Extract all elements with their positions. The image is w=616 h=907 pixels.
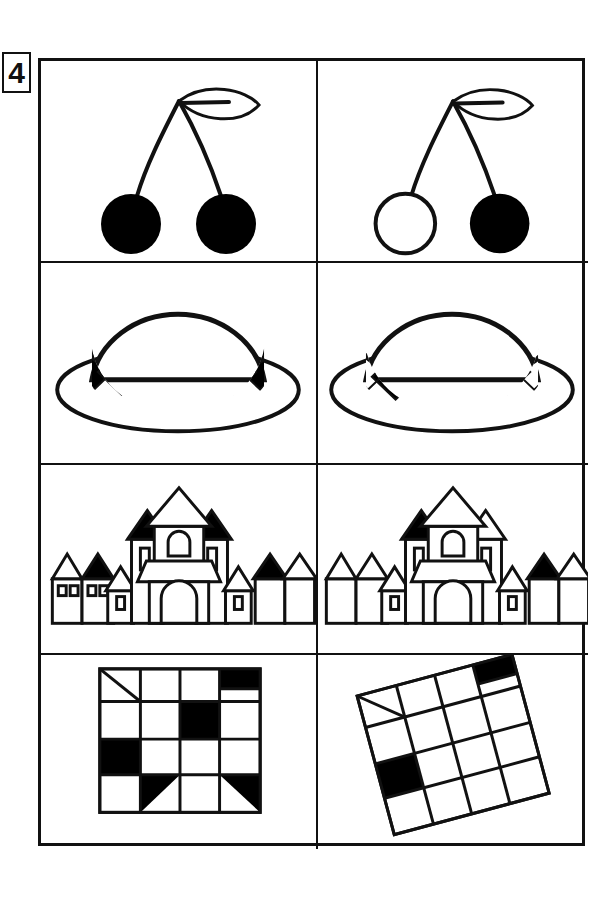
checkerboard-left-illustration	[41, 655, 316, 849]
hat-right-illustration	[318, 263, 588, 463]
castle-left-illustration	[41, 465, 316, 653]
checkerboard-right-illustration	[318, 655, 588, 849]
cell-castle-left	[41, 463, 316, 653]
castle-right-illustration	[318, 465, 588, 653]
cherry-right-berry	[470, 194, 530, 254]
cell-hat-right	[316, 261, 588, 463]
hat-crown	[366, 314, 538, 380]
worksheet-frame	[38, 58, 585, 846]
cell-cherries-right	[316, 61, 588, 261]
cell-castle-right	[316, 463, 588, 653]
cherry-right-berry	[196, 194, 256, 254]
cell-hat-left	[41, 261, 316, 463]
cherries-right-illustration	[318, 61, 588, 261]
cherry-left-berry	[376, 194, 436, 254]
exercise-number-label: 4	[8, 58, 25, 88]
cherries-left-illustration	[41, 61, 316, 261]
hat-left-illustration	[41, 263, 316, 463]
cell-cherries-left	[41, 61, 316, 261]
cell-checkerboard-right	[316, 653, 588, 849]
cherry-left-berry	[101, 194, 161, 254]
exercise-number-box: 4	[2, 52, 31, 93]
hat-crown	[92, 314, 264, 380]
cell-checkerboard-left	[41, 653, 316, 849]
